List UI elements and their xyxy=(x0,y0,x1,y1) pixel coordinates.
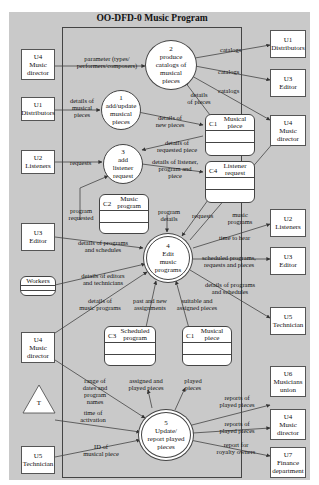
data-store-c1-musical-piece[interactable]: C1 Musicalpiece xyxy=(205,114,255,156)
flow-label-details-of-pieces: detailsof pieces xyxy=(180,91,218,105)
entity-id: U5 xyxy=(34,452,43,460)
flow-text: assigned pieces xyxy=(177,304,217,311)
flow-label-range-of-dates: range ofdates andprogramnames xyxy=(78,377,112,405)
flow-text: pieces xyxy=(185,384,201,391)
entity-id: U3 xyxy=(34,229,43,237)
process-2-produce-catalogs[interactable]: 2 produce catalogs of musical pieces xyxy=(145,40,197,90)
flow-text: suitable and xyxy=(181,297,212,304)
entity-name-line2: director xyxy=(27,352,49,360)
entity-name: Technician xyxy=(273,321,304,329)
entity-id: U3 xyxy=(284,75,293,83)
external-entity-u4-music-director-right[interactable]: U4 Music director xyxy=(270,115,306,146)
entity-name-line1: Musicians xyxy=(274,378,303,386)
store-name-line2: request xyxy=(225,169,245,177)
external-entity-u3-editor-right[interactable]: U3 Editor xyxy=(270,69,306,97)
process-3-add-listener-request[interactable]: 3 add listener request xyxy=(103,144,143,184)
entity-name-line1: Music xyxy=(279,127,297,135)
flow-label-program-requested: programrequested xyxy=(64,207,98,221)
external-entity-u4-music-director[interactable]: U4 Music director xyxy=(21,49,55,80)
entity-name: Listeners xyxy=(25,162,51,170)
entity-id: U7 xyxy=(284,451,293,459)
data-store-workers[interactable]: Workers xyxy=(20,276,56,296)
external-entity-u1-distributors-right[interactable]: U1 Distributors xyxy=(270,30,306,58)
flow-label-parameter: parameter (types/performers/composers) xyxy=(72,55,142,69)
trigger-label: T xyxy=(22,399,56,407)
external-entity-u3-editor-right-2[interactable]: U3 Editor xyxy=(270,247,306,275)
data-store-c2-music-program[interactable]: C2 Musicprogram xyxy=(99,194,149,234)
external-entity-u4-music-director-right-2[interactable]: U4 Music director xyxy=(270,409,306,440)
flow-label-id-musical-piece: ID ofmusical piece xyxy=(76,443,126,457)
store-id: C3 xyxy=(108,333,116,340)
flow-text: musical xyxy=(72,104,92,111)
store-name: Musicprogram xyxy=(112,196,146,210)
flow-text: details of programs xyxy=(205,281,255,288)
entity-id: U6 xyxy=(284,370,293,378)
process-label: musical xyxy=(160,69,182,77)
store-divider xyxy=(21,290,55,291)
flow-label-details-requested-piece: details ofrequested piece xyxy=(148,139,206,153)
flow-text: details of programs xyxy=(78,239,128,246)
flow-label-report-royalty: report forroyalty owners xyxy=(210,441,262,455)
flow-text: requests and pieces xyxy=(204,261,254,268)
entity-name-line2: department xyxy=(272,467,304,475)
entity-id: U4 xyxy=(284,119,293,127)
store-divider xyxy=(183,354,231,355)
entity-name-line2: director xyxy=(277,429,299,437)
process-label: add xyxy=(118,156,128,164)
store-name: Musicalpiece xyxy=(218,116,252,130)
process-label: request xyxy=(113,172,133,180)
process-number: 4 xyxy=(166,242,170,250)
entity-name: Distributors xyxy=(21,109,54,117)
external-entity-u5-technician-right[interactable]: U5 Technician xyxy=(270,307,306,335)
external-entity-u5-technician[interactable]: U5 Technician xyxy=(21,446,55,474)
external-entity-u4-music-director-2[interactable]: U4 Music director xyxy=(21,332,55,363)
flow-label-program-details: programdetails xyxy=(154,208,184,222)
flow-text: program xyxy=(84,391,106,398)
store-name-line2: piece xyxy=(228,122,243,130)
store-id: C1 xyxy=(209,121,217,128)
flow-label-details-listener: details of listener,program andpiece xyxy=(145,158,205,179)
flow-text: range of xyxy=(84,377,105,384)
flow-text: report for xyxy=(224,441,249,448)
flow-text: names xyxy=(87,398,104,405)
store-name-line2: program xyxy=(123,334,147,342)
external-entity-u3-editor[interactable]: U3 Editor xyxy=(21,223,55,251)
external-entity-u2-listeners-right[interactable]: U2 Listeners xyxy=(270,209,306,237)
process-label: pieces xyxy=(162,77,180,85)
process-label: Edit xyxy=(162,250,174,258)
flow-text: performers/composers) xyxy=(77,62,137,69)
process-number: 3 xyxy=(121,148,125,156)
process-4-edit-music-programs[interactable]: 4 Edit music programs xyxy=(146,236,190,280)
time-trigger-t[interactable]: T xyxy=(22,384,56,414)
process-1-add-update-musical-pieces[interactable]: 1 add/update musical pieces xyxy=(101,90,141,130)
external-entity-u1-distributors[interactable]: U1 Distributors xyxy=(21,97,55,121)
flow-text: program and xyxy=(158,165,191,172)
process-5-update-report-played-pieces[interactable]: 5 Update/ report played pieces xyxy=(141,412,191,458)
store-divider xyxy=(206,142,254,143)
flow-text: programs xyxy=(228,218,253,225)
entity-name: Editor xyxy=(279,261,297,269)
flow-text: dates and xyxy=(83,384,107,391)
flow-text: musical piece xyxy=(83,450,119,457)
data-store-c4-listener-request[interactable]: C4 Listenerrequest xyxy=(205,161,255,203)
flow-text: played pieces xyxy=(219,427,254,434)
flow-text: time of xyxy=(84,409,103,416)
entity-name-line2: union xyxy=(280,386,296,394)
entity-name-line1: Music xyxy=(29,344,47,352)
external-entity-u2-listeners[interactable]: U2 Listeners xyxy=(21,150,55,174)
store-divider xyxy=(105,354,155,355)
flow-text: details of listener, xyxy=(152,158,198,165)
flow-label-time-of-activation: time ofactivation xyxy=(76,409,110,423)
flow-text: of pieces xyxy=(187,98,210,105)
external-entity-u6-musicians-union[interactable]: U6 Musicians union xyxy=(270,366,306,397)
entity-name: Listeners xyxy=(275,223,301,231)
external-entity-u7-finance-department[interactable]: U7 Finance department xyxy=(270,447,306,478)
data-store-c3-scheduled-program[interactable]: C3 Scheduledprogram xyxy=(104,326,156,366)
flow-text: and schedules xyxy=(85,246,121,253)
flow-text: played pieces xyxy=(219,401,254,408)
flow-label-details-music-programs: details ofmusic programs xyxy=(72,297,128,311)
flow-text: royalty owners xyxy=(217,448,256,455)
data-store-c1-musical-piece-2[interactable]: C1 Musicalpiece xyxy=(182,326,232,366)
flow-text: played xyxy=(184,377,201,384)
flow-text: piece xyxy=(168,172,182,179)
